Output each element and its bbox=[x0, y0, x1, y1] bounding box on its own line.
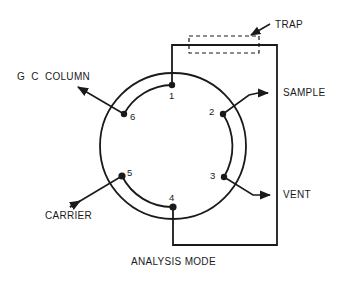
gc-column-label: G C COLUMN bbox=[17, 72, 90, 82]
six-port-valve-diagram bbox=[0, 0, 342, 282]
port-3-dot bbox=[221, 174, 227, 180]
carrier-label: CARRIER bbox=[45, 211, 92, 221]
trap-label: TRAP bbox=[275, 20, 303, 30]
port-6-dot bbox=[121, 111, 127, 117]
rotor-arc-2-3 bbox=[223, 114, 232, 177]
trap-pointer-arrow bbox=[251, 24, 270, 35]
sample-label: SAMPLE bbox=[283, 88, 325, 98]
port-6-label: 6 bbox=[130, 112, 135, 122]
diagram-title: ANALYSIS MODE bbox=[131, 257, 216, 267]
rotor-arc-6-1 bbox=[124, 85, 172, 114]
gc-column-outlet-line bbox=[78, 87, 124, 114]
port-2-label: 2 bbox=[209, 107, 214, 117]
port-1-dot bbox=[169, 82, 175, 88]
port-4-dot bbox=[169, 203, 176, 210]
carrier-inlet-arrow bbox=[70, 201, 80, 207]
port-2-dot bbox=[220, 111, 226, 117]
port-5-dot bbox=[118, 172, 125, 179]
vent-label: VENT bbox=[283, 190, 311, 200]
rotor-arc-5-4 bbox=[122, 176, 173, 207]
port-3-label: 3 bbox=[210, 171, 215, 181]
port-1-label: 1 bbox=[169, 91, 174, 101]
port-4-label: 4 bbox=[169, 193, 174, 203]
sample-inlet-line bbox=[223, 93, 268, 114]
vent-outlet-line bbox=[224, 177, 270, 195]
port-5-label: 5 bbox=[127, 168, 132, 178]
